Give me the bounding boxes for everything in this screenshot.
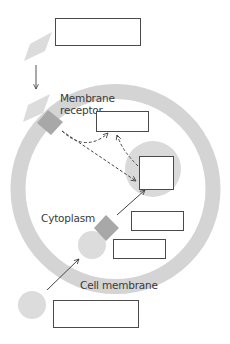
cell-membrane-label: Cell membrane [80,279,158,291]
answer-box-response-1[interactable] [131,211,184,231]
cell-signaling-diagram: Membrane receptor Cytoplasm Cell membran… [0,0,230,344]
signal-molecule-shape [24,32,52,61]
answer-box-signal[interactable] [55,18,141,46]
answer-box-response-2[interactable] [113,239,166,259]
dashed-arrow-receptor-to-nucleus [62,131,136,181]
answer-box-second-messenger[interactable] [96,111,149,132]
outer-molecule-circle [18,291,46,319]
membrane-receptor-label-line1: Membrane [60,92,115,104]
cytoplasm-label: Cytoplasm [41,212,95,224]
answer-box-outer-molecule[interactable] [53,300,139,328]
diagram-canvas [0,0,230,344]
answer-box-nucleus[interactable] [139,156,174,190]
dashed-arrow-receptor-to-box2 [62,131,108,143]
